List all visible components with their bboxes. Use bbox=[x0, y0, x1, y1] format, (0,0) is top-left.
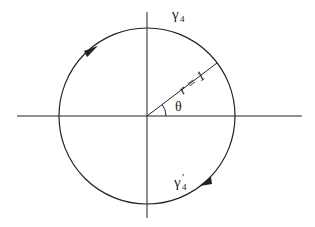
angle-arc bbox=[162, 105, 166, 116]
gamma4prime-subscript: 4 bbox=[182, 182, 187, 192]
gamma4-label: γ 4 bbox=[171, 6, 185, 24]
radius-label: r = 1 bbox=[176, 68, 208, 97]
gamma4prime-label: γ ′ 4 bbox=[173, 171, 187, 192]
gamma4prime-arrow-icon bbox=[200, 177, 213, 186]
contour-diagram: r = 1 θ γ 4 γ ′ 4 bbox=[0, 0, 315, 227]
gamma4-subscript: 4 bbox=[180, 14, 185, 24]
angle-label: θ bbox=[175, 99, 182, 114]
gamma4-symbol: γ bbox=[171, 6, 179, 22]
gamma4prime-symbol: γ bbox=[173, 174, 181, 190]
